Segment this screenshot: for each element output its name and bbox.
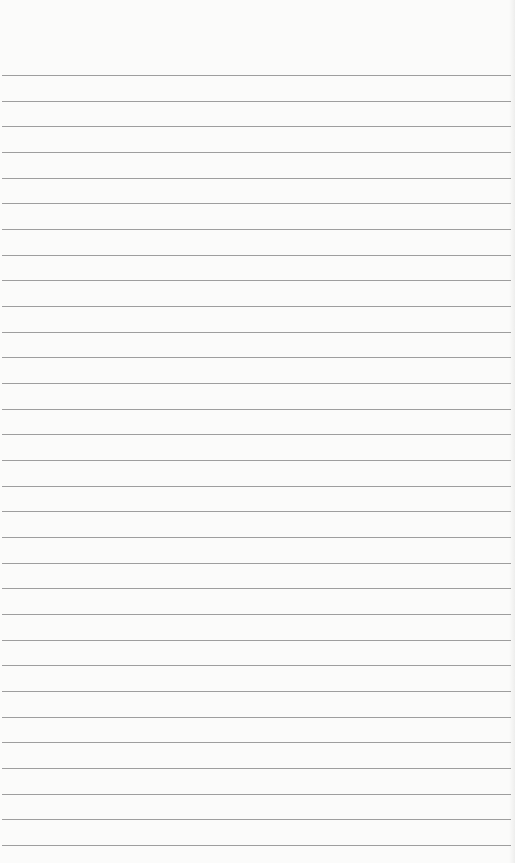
rule-line: [2, 126, 511, 127]
rule-line: [2, 614, 511, 615]
rule-line: [2, 460, 511, 461]
rule-line: [2, 640, 511, 641]
rule-line: [2, 768, 511, 769]
rule-line: [2, 434, 511, 435]
rule-line: [2, 229, 511, 230]
rule-line: [2, 357, 511, 358]
rule-line: [2, 101, 511, 102]
rule-line: [2, 563, 511, 564]
rule-line: [2, 255, 511, 256]
rule-line: [2, 306, 511, 307]
rule-line: [2, 383, 511, 384]
rule-line: [2, 794, 511, 795]
rule-line: [2, 665, 511, 666]
rule-line: [2, 178, 511, 179]
rule-line: [2, 332, 511, 333]
rule-line: [2, 742, 511, 743]
rule-line: [2, 486, 511, 487]
rule-line: [2, 537, 511, 538]
rule-line: [2, 819, 511, 820]
rule-line: [2, 845, 511, 846]
rule-line: [2, 280, 511, 281]
rule-line: [2, 511, 511, 512]
rule-line: [2, 203, 511, 204]
rule-line: [2, 409, 511, 410]
rule-line: [2, 691, 511, 692]
rule-line: [2, 75, 511, 76]
rule-line: [2, 152, 511, 153]
ruled-paper-sheet: [0, 0, 515, 863]
rule-line: [2, 588, 511, 589]
rule-line: [2, 717, 511, 718]
